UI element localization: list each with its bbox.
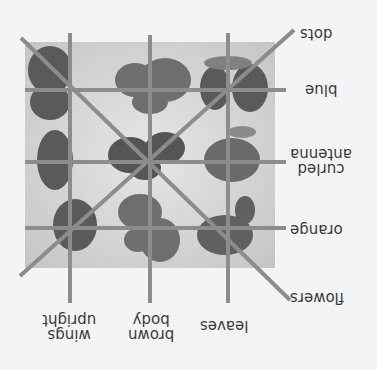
row-label-orange: orange (290, 222, 343, 237)
column-label-wings-upright: wings upright (42, 312, 96, 342)
row-label-dots: dots (300, 26, 332, 41)
row-label-blue: blue (305, 82, 337, 97)
butterfly-icon (204, 126, 260, 182)
column-label-leaves: leaves (200, 318, 249, 333)
butterfly-icon (115, 58, 191, 114)
row-label-flowers: flowers (290, 290, 344, 305)
column-label-brown-body: brown body (128, 312, 174, 342)
diagram: dots blue curled antenna orange flowers … (0, 0, 377, 370)
row-label-curled-antenna: curled antenna (290, 146, 352, 176)
